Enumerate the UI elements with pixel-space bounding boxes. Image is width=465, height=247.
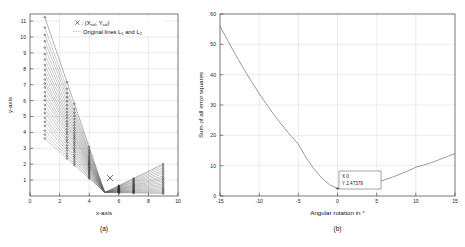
- ytick-a-3: 4: [23, 129, 26, 135]
- datatip-x-value: X 0: [342, 174, 349, 179]
- ytick-a-0: 1: [23, 177, 26, 183]
- panel-a-legend: : (Xsol, Ysol) Original lines L1 and L2: [60, 16, 164, 36]
- ytick-a-8: 9: [23, 50, 26, 56]
- ytick-a-1: 2: [23, 161, 26, 167]
- panel-a-xlabel: x-axis: [96, 209, 112, 216]
- panel-b-y-ticklabels: 0 10 20 30 40 50 60: [210, 11, 216, 199]
- xtick-b-3: 0: [336, 198, 339, 204]
- xtick-a-5: 10: [175, 198, 181, 204]
- panel-b-xlabel: Angular rotation in °: [310, 209, 365, 216]
- legend-entry-1-prefix: : (X: [82, 20, 91, 26]
- legend-entry-2-prefix: Original lines L: [83, 29, 122, 35]
- xtick-a-3: 6: [117, 198, 120, 204]
- ytick-a-9: 10: [20, 34, 26, 40]
- panel-a-grid: [30, 14, 178, 196]
- xtick-b-6: 15: [452, 198, 458, 204]
- panel-a-caption: (a): [100, 225, 108, 233]
- ytick-b-4: 40: [210, 72, 216, 78]
- ytick-a-10: 11: [21, 18, 26, 24]
- panel-b-datatip: X 0 Y 2.47379: [336, 171, 381, 190]
- figure-container: 0 2 4 6 8 10 1 2 3 4 5 6 7 8 9 10 11: [0, 0, 465, 247]
- panel-b: X 0 Y 2.47379: [190, 0, 465, 247]
- panel-b-svg: X 0 Y 2.47379: [190, 0, 465, 247]
- xtick-b-2: -5: [296, 198, 301, 204]
- panel-a-x-ticklabels: 0 2 4 6 8 10: [29, 198, 181, 204]
- ytick-a-7: 8: [23, 66, 26, 72]
- ytick-b-0: 0: [213, 193, 216, 199]
- legend-entry-1-suffix: ): [107, 20, 109, 26]
- xtick-b-4: 5: [375, 198, 378, 204]
- datatip-y-value: Y 2.47379: [342, 181, 363, 186]
- panel-b-caption: (b): [333, 225, 341, 233]
- ytick-b-3: 30: [210, 102, 216, 108]
- panel-a-y-ticklabels: 1 2 3 4 5 6 7 8 9 10 11: [20, 18, 26, 183]
- ytick-b-2: 20: [210, 132, 216, 138]
- panel-a-data-points: [44, 16, 164, 194]
- panel-a-svg: 0 2 4 6 8 10 1 2 3 4 5 6 7 8 9 10 11: [0, 0, 200, 247]
- panel-a-tick-marks: [30, 21, 178, 196]
- ytick-b-6: 60: [210, 11, 216, 17]
- panel-a-ylabel: y-axis: [6, 97, 13, 113]
- panel-a-original-lines: [45, 17, 163, 192]
- xtick-a-1: 2: [58, 198, 61, 204]
- ytick-a-5: 6: [23, 98, 26, 104]
- ytick-b-1: 10: [210, 163, 216, 169]
- legend-entry-2-mid: and L: [124, 29, 141, 35]
- ytick-b-5: 50: [210, 41, 216, 47]
- xtick-b-0: -15: [216, 198, 224, 204]
- panel-b-ylabel: Sum of all error squares: [197, 72, 204, 138]
- xtick-b-1: -10: [256, 198, 264, 204]
- datatip-anchor-point: [336, 187, 338, 189]
- xtick-b-5: 10: [413, 198, 419, 204]
- xtick-a-0: 0: [29, 198, 32, 204]
- ytick-a-4: 5: [23, 113, 26, 119]
- ytick-a-6: 7: [23, 82, 26, 88]
- panel-a: 0 2 4 6 8 10 1 2 3 4 5 6 7 8 9 10 11: [0, 0, 200, 247]
- panel-b-grid: [220, 14, 455, 196]
- xtick-a-2: 4: [88, 198, 91, 204]
- ytick-a-2: 3: [23, 145, 26, 151]
- xtick-a-4: 8: [147, 198, 150, 204]
- panel-a-axes: [30, 14, 178, 196]
- legend-entry-2-sub2: 2: [140, 31, 142, 36]
- panel-b-x-ticklabels: -15 -10 -5 0 5 10 15: [216, 198, 458, 204]
